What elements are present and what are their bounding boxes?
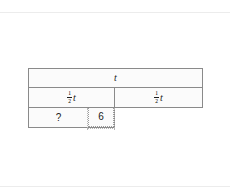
page-rule-bottom bbox=[0, 186, 230, 187]
dotted-guide-line bbox=[87, 128, 115, 129]
known-value-label: 6 bbox=[98, 112, 104, 122]
tape-diagram: t 1 2 t 1 2 bbox=[28, 68, 203, 128]
tape-cell-unknown: ? bbox=[29, 108, 88, 127]
unknown-label: ? bbox=[56, 113, 62, 123]
tape-row-total: t bbox=[28, 68, 203, 88]
fraction-denominator: 2 bbox=[68, 99, 71, 105]
tape-cell-total: t bbox=[29, 69, 202, 87]
fraction-numerator: 1 bbox=[68, 91, 71, 97]
dotted-tick-left bbox=[87, 108, 88, 130]
total-label: t bbox=[114, 73, 117, 83]
fraction-denominator: 2 bbox=[155, 99, 158, 105]
dotted-tick-right bbox=[114, 108, 115, 130]
tape-row-parts: ? 6 bbox=[28, 108, 115, 128]
fraction-one-half: 1 2 bbox=[67, 91, 72, 105]
half-right-label: 1 2 t bbox=[154, 91, 163, 105]
tape-cell-half-left: 1 2 t bbox=[29, 88, 115, 107]
tape-cell-half-right: 1 2 t bbox=[115, 88, 202, 107]
fraction-numerator: 1 bbox=[155, 91, 158, 97]
page-canvas: t 1 2 t 1 2 bbox=[0, 0, 230, 194]
half-right-variable: t bbox=[160, 93, 163, 103]
fraction-one-half: 1 2 bbox=[154, 91, 159, 105]
half-left-variable: t bbox=[73, 93, 76, 103]
page-rule-top bbox=[0, 12, 230, 13]
tape-row-halves: 1 2 t 1 2 t bbox=[28, 88, 203, 108]
tape-cell-known: 6 bbox=[88, 108, 114, 127]
half-left-label: 1 2 t bbox=[67, 91, 76, 105]
